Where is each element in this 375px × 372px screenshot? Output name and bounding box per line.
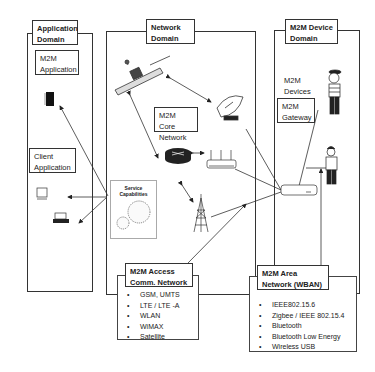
satellite-dish-icon xyxy=(217,96,243,120)
access-network-title: M2M Access Comm. Network xyxy=(125,263,193,287)
list-item: Bluetooth Low Energy xyxy=(272,332,356,343)
area-network-title: M2M Area Network (WBAN) xyxy=(257,265,329,290)
list-item: WiMAX xyxy=(140,322,198,333)
monitor-icon xyxy=(37,188,47,199)
list-item: IEEE802.15.6 xyxy=(272,300,356,311)
service-capabilities-label: Service Capabilities xyxy=(111,185,156,197)
router-icon xyxy=(165,148,191,164)
device-domain-title: M2M Device Domain xyxy=(285,19,338,44)
m2m-gateway-label: M2M Gateway xyxy=(277,98,315,123)
application-domain-title: Application Domain xyxy=(32,20,78,45)
list-item: Satellite xyxy=(140,332,198,343)
server-icon xyxy=(44,92,54,106)
list-item: Zigbee / IEEE 802.15.4 xyxy=(272,311,356,322)
laptop-icon xyxy=(53,213,69,223)
list-item: LTE / LTE -A xyxy=(140,301,198,312)
wifi-router-icon xyxy=(207,150,236,168)
client-application-label: Client Application xyxy=(29,148,76,173)
m2m-devices-label: M2M Devices xyxy=(284,75,311,97)
service-capabilities-box: Service Capabilities xyxy=(110,180,157,239)
satellite-icon xyxy=(115,56,170,95)
list-item: Wireless USB xyxy=(272,342,356,353)
list-item: WLAN xyxy=(140,311,198,322)
person-icon xyxy=(326,147,337,185)
cell-tower-icon xyxy=(194,194,208,232)
list-item: GSM, UMTS xyxy=(140,290,198,301)
m2m-application-label: M2M Application xyxy=(35,50,79,75)
gateway-device-icon xyxy=(281,185,317,195)
network-domain-title: Network Domain xyxy=(146,19,195,44)
person-icon xyxy=(329,70,341,114)
list-item: Bluetooth xyxy=(272,321,356,332)
m2m-core-network-label: M2M Core Network xyxy=(154,107,198,132)
